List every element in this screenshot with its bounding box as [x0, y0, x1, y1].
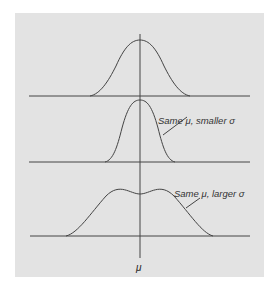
normal-curves-diagram	[0, 0, 279, 288]
pointer-larger	[186, 198, 200, 208]
annotation-smaller-sigma: Same μ, smaller σ	[158, 115, 235, 126]
mu-axis-label: μ	[136, 262, 141, 273]
annotation-larger-sigma: Same μ, larger σ	[174, 188, 245, 199]
